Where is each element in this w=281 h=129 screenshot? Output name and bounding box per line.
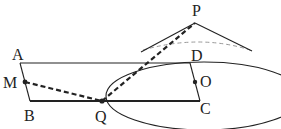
segment-MQ [25,82,102,101]
cone-left-slant [141,23,195,52]
cone-base-ellipse [106,62,281,129]
label-M: M [3,74,17,91]
geometry-diagram: P A D M O B Q C [0,0,281,129]
label-P: P [192,2,201,19]
label-C: C [200,100,211,117]
segment-QP [102,23,195,101]
label-B: B [24,107,35,124]
label-D: D [191,47,203,64]
label-O: O [200,73,212,90]
point-M [23,80,28,85]
point-O [193,80,197,84]
label-A: A [12,46,24,63]
point-Q [99,98,104,103]
label-Q: Q [95,108,107,125]
cone-right-slant [195,23,252,51]
